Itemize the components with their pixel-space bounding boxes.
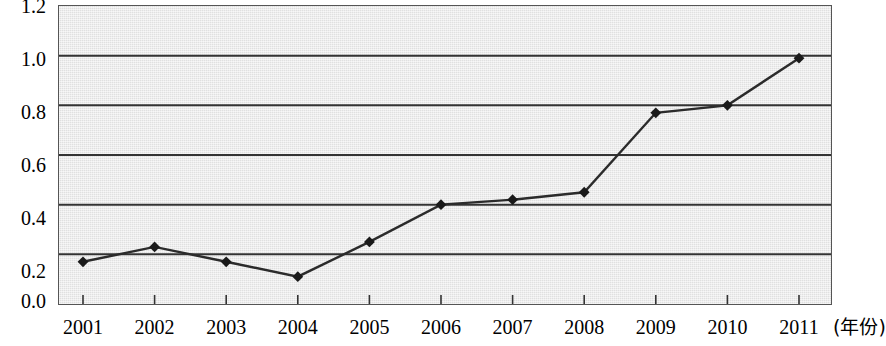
x-tick-label-2008: 2008 (564, 314, 604, 340)
x-axis-name: (年份) (833, 314, 886, 340)
x-tick-label-2010: 2010 (707, 314, 747, 340)
y-tick-label-1.0: 1.0 (21, 49, 46, 69)
data-point-2004 (292, 271, 303, 282)
data-point-2007 (507, 194, 518, 205)
x-tickmarks-group (83, 295, 799, 304)
x-tick-label-2002: 2002 (135, 314, 175, 340)
y-tick-label-0.2: 0.2 (21, 261, 46, 281)
data-point-2001 (78, 256, 89, 267)
gridlines-group (59, 56, 831, 255)
y-tick-label-0.0: 0.0 (21, 291, 46, 311)
x-tick-label-2005: 2005 (349, 314, 389, 340)
y-tick-label-0.6: 0.6 (21, 155, 46, 175)
y-tick-label-0.8: 0.8 (21, 102, 46, 122)
data-point-2006 (436, 199, 447, 210)
x-tick-label-2004: 2004 (278, 314, 318, 340)
data-line (83, 58, 799, 277)
plot-area (58, 5, 832, 305)
x-tick-label-2011: 2011 (779, 314, 818, 340)
data-markers-group (78, 53, 805, 282)
x-tick-label-2006: 2006 (421, 314, 461, 340)
x-tick-label-2001: 2001 (63, 314, 103, 340)
plot-canvas (59, 6, 831, 304)
x-tick-label-2009: 2009 (636, 314, 676, 340)
x-tick-label-2003: 2003 (206, 314, 246, 340)
x-axis-tick-labels: 2001200220032004200520062007200820092010… (0, 314, 880, 346)
x-tick-label-2007: 2007 (493, 314, 533, 340)
y-axis-tick-labels: 1.2 1.0 0.8 0.6 0.4 0.2 0.0 (0, 0, 52, 320)
data-point-2002 (149, 241, 160, 252)
y-tick-label-1.2: 1.2 (21, 0, 46, 16)
data-point-2005 (364, 237, 375, 248)
data-point-2003 (221, 256, 232, 267)
y-tick-label-0.4: 0.4 (21, 208, 46, 228)
